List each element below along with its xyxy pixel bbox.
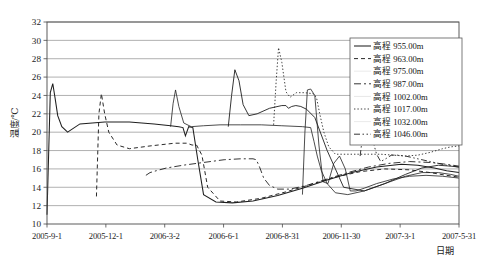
x-tick-label: 2006-3-2 <box>150 231 180 241</box>
legend-label-5: 高程 1017.00m <box>373 103 428 114</box>
x-tick-label: 2006-6-1 <box>209 231 239 241</box>
x-tick-label: 2005-12-1 <box>89 231 123 241</box>
chart-root: 3230282624222018161412102005-9-12005-12-… <box>0 0 482 275</box>
legend-label-2: 高程 975.00m <box>373 65 424 76</box>
x-tick-label: 2005-9-1 <box>32 231 62 241</box>
legend: 高程 955.00m高程 963.00m高程 975.00m高程 987.00m… <box>350 38 462 145</box>
y-tick-label: 22 <box>32 109 42 119</box>
x-tick-label: 2007-5-31 <box>442 231 476 241</box>
legend-label-6: 高程 1032.00m <box>373 116 428 127</box>
legend-label-0: 高程 955.00m <box>373 40 424 51</box>
y-tick-label: 26 <box>32 72 42 82</box>
y-tick-label: 20 <box>32 127 42 137</box>
y-tick-label: 28 <box>32 54 42 64</box>
legend-label-7: 高程 1046.00m <box>373 128 428 139</box>
x-tick-label: 2007-3-1 <box>385 231 415 241</box>
x-tick-label: 2006-11-30 <box>322 231 360 241</box>
y-tick-label: 30 <box>32 36 42 46</box>
x-axis-title: 日期 <box>436 246 454 256</box>
legend-label-3: 高程 987.00m <box>373 78 424 89</box>
temperature-line-chart: 3230282624222018161412102005-9-12005-12-… <box>0 0 482 275</box>
y-axis: 323028262422201816141210 <box>32 17 47 229</box>
y-tick-label: 10 <box>32 219 42 229</box>
x-tick-label: 2006-8-31 <box>265 231 299 241</box>
legend-label-4: 高程 1002.00m <box>373 91 428 102</box>
y-tick-label: 18 <box>32 146 42 156</box>
legend-label-1: 高程 963.00m <box>373 53 424 64</box>
y-tick-label: 32 <box>32 17 42 27</box>
y-axis-title: 温度/℃ <box>9 108 20 139</box>
y-tick-label: 16 <box>32 164 42 174</box>
y-tick-label: 12 <box>32 201 42 211</box>
y-tick-label: 24 <box>32 91 42 101</box>
x-axis: 2005-9-12005-12-12006-3-22006-6-12006-8-… <box>32 224 476 241</box>
y-tick-label: 14 <box>32 183 42 193</box>
